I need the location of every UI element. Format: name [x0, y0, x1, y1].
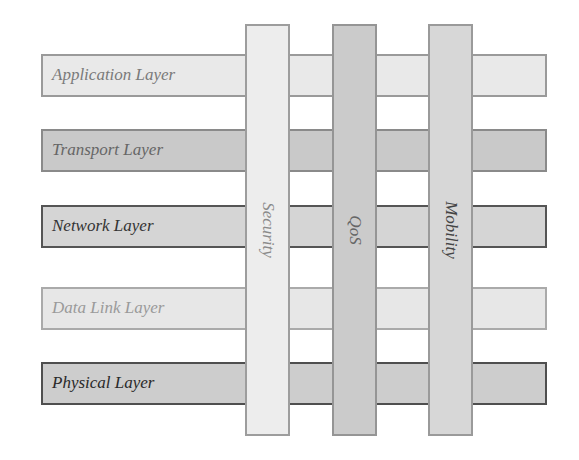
concern-mobility-label: Mobility: [441, 201, 461, 259]
layer-application-label: Application Layer: [52, 65, 175, 85]
concern-qos-label: QoS: [345, 215, 365, 244]
concern-qos: QoS: [332, 24, 377, 436]
layer-transport-label: Transport Layer: [52, 140, 163, 160]
concern-mobility: Mobility: [428, 24, 473, 436]
concern-security: Security: [245, 24, 290, 436]
concern-security-label: Security: [258, 202, 278, 258]
layer-data-link-label: Data Link Layer: [52, 298, 164, 318]
layer-network-label: Network Layer: [52, 216, 154, 236]
layer-physical-label: Physical Layer: [52, 373, 154, 393]
